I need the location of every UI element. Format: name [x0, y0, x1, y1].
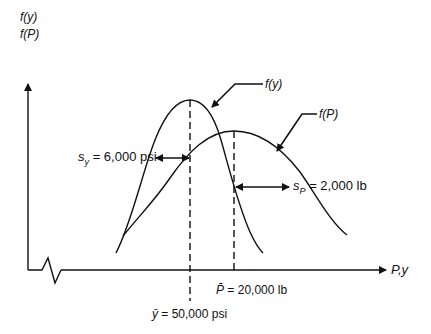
leader-f-p — [277, 114, 317, 151]
std-label-p: sP = 2,000 lb — [293, 179, 367, 192]
mean-label-y: ȳ = 50,000 psi — [152, 308, 227, 320]
std-arrow-p-left-head — [235, 183, 243, 191]
mean-value-p: = 20,000 lb — [227, 283, 287, 297]
std-subscript-y: y — [85, 157, 90, 167]
std-value-p: = 2,000 lb — [309, 178, 366, 193]
x-axis-break — [28, 258, 61, 283]
x-axis-label: P,y — [391, 263, 408, 276]
std-symbol-p: s — [293, 178, 300, 193]
std-symbol-y: s — [78, 149, 85, 164]
mean-symbol-y: ȳ — [152, 307, 158, 321]
mean-label-p: P̄ = 20,000 lb — [216, 284, 287, 296]
std-subscript-p: P — [300, 186, 306, 196]
std-label-y: sy = 6,000 psi — [78, 150, 157, 163]
std-value-y: = 6,000 psi — [93, 149, 157, 164]
y-axis-label-f-y: f(y) — [20, 11, 37, 23]
mean-symbol-p: P̄ — [216, 283, 224, 297]
curve-label-f-y: f(y) — [265, 78, 282, 90]
y-axis-label-f-p: f(P) — [20, 28, 39, 40]
mean-value-y: = 50,000 psi — [161, 307, 227, 321]
curve-label-f-p: f(P) — [319, 108, 338, 120]
leader-f-y — [212, 84, 263, 107]
